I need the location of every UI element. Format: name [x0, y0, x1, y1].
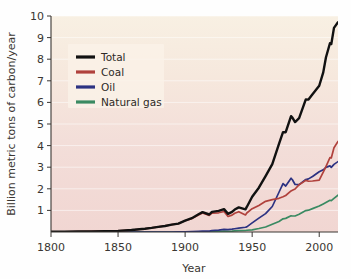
y-tick-label: 1 [37, 204, 44, 217]
x-tick-label: 1850 [104, 241, 132, 254]
x-tick-label: 1950 [238, 241, 266, 254]
y-tick-label: 4 [37, 140, 44, 153]
x-tick-label: 1800 [37, 241, 65, 254]
legend-label-natural-gas: Natural gas [101, 96, 162, 108]
x-tick-label: 1900 [171, 241, 199, 254]
y-tick-label: 7 [37, 75, 44, 88]
x-tick-label: 2000 [305, 241, 333, 254]
chart-figure: 12345678910 18001850190019502000 Billion… [0, 0, 351, 279]
legend-label-oil: Oil [101, 81, 115, 93]
y-tick-label: 9 [37, 32, 44, 45]
y-tick-label: 2 [37, 183, 44, 196]
y-tick-label: 10 [30, 10, 44, 23]
legend-label-total: Total [100, 51, 126, 63]
y-tick-label: 5 [37, 118, 44, 131]
y-tick-label: 3 [37, 161, 44, 174]
y-tick-label: 8 [37, 53, 44, 66]
chart-legend: TotalCoalOilNatural gas [68, 44, 164, 108]
x-axis-title: Year [181, 262, 206, 275]
emissions-line-chart: 12345678910 18001850190019502000 Billion… [0, 0, 351, 279]
y-tick-label: 6 [37, 96, 44, 109]
legend-label-coal: Coal [101, 66, 124, 78]
y-axis-title: Billion metric tons of carbon/year [5, 32, 18, 216]
